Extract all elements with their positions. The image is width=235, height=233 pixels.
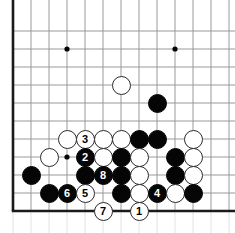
star-point [64, 154, 69, 159]
board-edge-lines [12, 0, 235, 211]
go-board-diagram: 32865471 [0, 0, 235, 233]
star-point [64, 46, 69, 51]
board-grid [0, 0, 235, 233]
star-point [172, 46, 177, 51]
grid-lines [13, 0, 235, 233]
